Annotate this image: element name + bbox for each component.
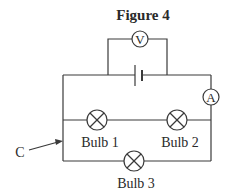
bulb-1: Bulb 1 [81,110,119,150]
voltmeter-wire-right [148,39,167,75]
voltmeter-branch: V [108,31,167,75]
bulb-2: Bulb 2 [161,110,199,150]
cell-icon [135,65,142,86]
circuit-diagram: Figure 4 V A Bulb 1 Bulb 2 [0,0,235,196]
voltmeter-symbol: V [135,32,145,47]
voltmeter-wire-left [108,39,132,75]
arrow-icon [29,142,58,150]
pointer-c-label: C [15,145,24,160]
bulb-3-label: Bulb 3 [117,176,155,191]
pointer-c: C [15,139,63,160]
ammeter-symbol: A [206,90,216,105]
bulb-1-label: Bulb 1 [81,135,119,150]
figure-title: Figure 4 [116,7,170,23]
bulb-3: Bulb 3 [117,151,155,191]
bulb-2-label: Bulb 2 [161,135,199,150]
arrowhead-icon [55,139,63,145]
ammeter: A [203,89,219,105]
